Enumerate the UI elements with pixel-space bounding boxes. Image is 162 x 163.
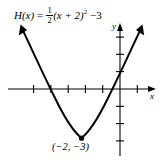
parabola-graph-figure: H(x) = 1 2 (x + 2)2 −3 (−2, −3) x y	[0, 0, 162, 163]
y-axis-arrowhead-icon	[117, 23, 123, 31]
equation-equals-sign: =	[37, 9, 43, 21]
graph-canvas	[0, 0, 162, 163]
fraction-denominator: 2	[46, 16, 52, 25]
equation-label: H(x) = 1 2 (x + 2)2 −3	[14, 6, 102, 24]
equation-binomial: (x + 2)	[53, 9, 84, 21]
curve-right-arrowhead-icon	[136, 25, 144, 36]
x-axis-label: x	[150, 92, 154, 101]
y-axis-label: y	[112, 22, 116, 31]
equation-lhs: H(x)	[14, 9, 34, 21]
equation-constant: 3	[96, 9, 102, 21]
coefficient-fraction: 1 2	[46, 6, 52, 24]
vertex-coordinate-label: (−2, −3)	[52, 142, 89, 153]
equation-exponent: 2	[84, 8, 88, 16]
curve-left-arrowhead-icon	[19, 25, 27, 36]
parabola-curve	[24, 32, 140, 138]
